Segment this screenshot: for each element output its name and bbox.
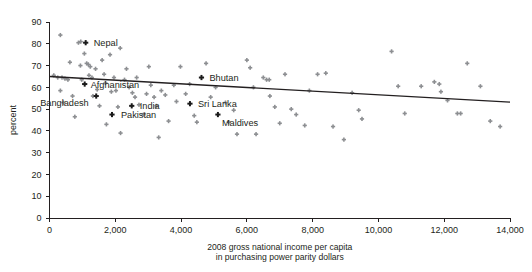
x-tick-label: 2,000 xyxy=(104,225,127,235)
x-tick-label: 10,000 xyxy=(365,225,393,235)
y-tick-label: 60 xyxy=(31,83,41,93)
data-point xyxy=(58,33,62,37)
y-tick-label: 80 xyxy=(31,39,41,49)
highlighted-point-maldives xyxy=(215,112,220,117)
y-axis-ticks: 0102030405060708090 xyxy=(31,17,49,223)
data-point xyxy=(273,105,277,109)
data-point xyxy=(152,95,156,99)
data-point xyxy=(465,61,469,65)
scatter-chart: 0102030405060708090 02,0004,0006,0008,00… xyxy=(0,0,532,272)
data-point xyxy=(68,60,72,64)
highlighted-point-india xyxy=(129,103,134,108)
highlighted-point-bhutan xyxy=(199,75,204,80)
point-label-pakistan: Pakistan xyxy=(121,110,156,120)
data-point xyxy=(294,112,298,116)
x-axis-title-line1: 2008 gross national income per capita xyxy=(207,242,352,252)
data-point xyxy=(268,94,272,98)
highlighted-point-afghanistan xyxy=(82,81,87,86)
data-point xyxy=(342,138,346,142)
point-label-bhutan: Bhutan xyxy=(209,73,238,83)
data-point xyxy=(97,104,101,108)
x-tick-label: 12,000 xyxy=(430,225,458,235)
data-point xyxy=(389,49,393,53)
x-axis-ticks: 02,0004,0006,0008,00010,00012,00014,000 xyxy=(47,218,524,235)
point-label-afghanistan: Afghanistan xyxy=(91,80,140,90)
data-point xyxy=(248,66,252,70)
data-point xyxy=(93,67,97,71)
data-point xyxy=(439,90,443,94)
data-point xyxy=(163,93,167,97)
data-point xyxy=(478,84,482,88)
y-tick-label: 30 xyxy=(31,148,41,158)
y-tick-label: 40 xyxy=(31,126,41,136)
point-label-bangladesh: Bangladesh xyxy=(40,98,89,108)
x-tick-label: 14,000 xyxy=(496,225,524,235)
data-point xyxy=(283,72,287,76)
data-point xyxy=(82,51,86,55)
data-point xyxy=(108,53,112,57)
highlighted-point-bangladesh xyxy=(94,93,99,98)
data-point xyxy=(437,82,441,86)
data-point xyxy=(130,91,134,95)
data-point xyxy=(73,115,77,119)
x-tick-label: 0 xyxy=(47,225,52,235)
data-point xyxy=(147,65,151,69)
highlighted-point-sri-lanka xyxy=(187,101,192,106)
data-point xyxy=(331,124,335,128)
data-point xyxy=(254,132,258,136)
point-label-nepal: Nepal xyxy=(94,38,118,48)
data-point xyxy=(58,89,62,93)
data-point xyxy=(360,117,364,121)
data-point xyxy=(184,92,188,96)
data-point xyxy=(204,61,208,65)
data-point xyxy=(159,89,163,93)
data-point xyxy=(498,124,502,128)
data-point xyxy=(104,122,108,126)
data-point xyxy=(459,111,463,115)
data-point xyxy=(396,84,400,88)
x-tick-label: 6,000 xyxy=(236,225,259,235)
x-tick-label: 4,000 xyxy=(170,225,193,235)
y-tick-label: 0 xyxy=(36,213,41,223)
data-point xyxy=(278,121,282,125)
data-point xyxy=(102,72,106,76)
x-axis-title-line2: in purchasing power parity dollars xyxy=(216,252,344,262)
data-point xyxy=(100,58,104,62)
data-point xyxy=(403,111,407,115)
highlighted-point-pakistan xyxy=(109,112,114,117)
data-point xyxy=(303,123,307,127)
data-point xyxy=(419,84,423,88)
data-point xyxy=(157,135,161,139)
data-point xyxy=(118,131,122,135)
data-point xyxy=(116,105,120,109)
data-point xyxy=(174,99,178,103)
data-point xyxy=(267,78,271,82)
data-point xyxy=(144,92,148,96)
data-point xyxy=(133,95,137,99)
point-label-maldives: Maldives xyxy=(222,118,259,128)
data-point xyxy=(357,108,361,112)
data-point xyxy=(192,114,196,118)
highlighted-point-nepal xyxy=(83,40,88,45)
x-tick-label: 8,000 xyxy=(301,225,324,235)
data-point xyxy=(315,72,319,76)
data-point xyxy=(178,65,182,69)
chart-svg: 0102030405060708090 02,0004,0006,0008,00… xyxy=(0,0,532,272)
data-point xyxy=(124,67,128,71)
point-label-sri-lanka: Sri Lanka xyxy=(198,99,238,109)
y-tick-label: 20 xyxy=(31,170,41,180)
data-point xyxy=(245,58,249,62)
data-point xyxy=(235,132,239,136)
y-tick-label: 90 xyxy=(31,17,41,27)
data-point xyxy=(432,80,436,84)
data-point xyxy=(289,107,293,111)
y-axis-title: percent xyxy=(8,104,18,135)
data-point xyxy=(118,46,122,50)
data-point xyxy=(109,90,113,94)
data-point xyxy=(324,71,328,75)
point-label-india: India xyxy=(140,101,161,111)
data-point xyxy=(166,119,170,123)
data-point xyxy=(488,119,492,123)
y-tick-label: 10 xyxy=(31,191,41,201)
data-point xyxy=(149,83,153,87)
